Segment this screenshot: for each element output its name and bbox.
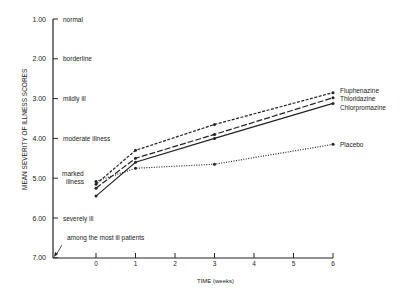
data-point [213, 137, 216, 140]
data-point [332, 143, 335, 146]
data-point [213, 133, 216, 136]
x-tick-label: 1 [134, 260, 138, 267]
x-tick-label: 6 [331, 260, 335, 267]
x-tick-label: 4 [252, 260, 256, 267]
series-lines: FluphenazineThioridazineChlorpromazinePl… [95, 87, 387, 197]
category-label: moderate illness [63, 135, 111, 142]
x-axis-label: TIME (weeks) [197, 278, 234, 284]
data-point [134, 149, 137, 152]
category-label: among the most ill patients [67, 234, 145, 242]
data-point [134, 157, 137, 160]
y-tick-label: 4.00 [32, 135, 46, 142]
data-point [95, 183, 98, 186]
y-tick-label: 5.00 [32, 175, 46, 182]
series-label: Chlorpromazine [340, 104, 386, 112]
data-point [332, 102, 335, 105]
data-point [95, 180, 98, 183]
data-point [332, 91, 335, 94]
series-line-chlorpromazine [96, 103, 333, 196]
series-line-thioridazine [96, 98, 333, 188]
category-label: borderline [63, 55, 92, 62]
category-label: marked [62, 170, 84, 177]
x-tick-label: 2 [173, 260, 177, 267]
data-point [95, 195, 98, 198]
data-point [134, 167, 137, 170]
y-axis-label: MEAN SEVERITY OF ILLNESS SCORES [21, 68, 28, 190]
data-point [213, 163, 216, 166]
x-tick-label: 3 [213, 260, 217, 267]
series-label: Placebo [340, 141, 364, 148]
category-label: normal [63, 16, 83, 23]
category-label: mildly ill [63, 95, 86, 103]
y-ticks: 1.002.003.004.005.006.007.00normalborder… [32, 16, 145, 262]
category-label: severely ill [63, 215, 94, 223]
y-tick-label: 2.00 [32, 55, 46, 62]
series-label: Thioridazine [340, 95, 376, 102]
data-point [332, 96, 335, 99]
x-tick-label: 5 [292, 260, 296, 267]
severity-line-chart: 1.002.003.004.005.006.007.00normalborder… [0, 0, 401, 296]
category-label: illness [66, 178, 85, 185]
data-point [95, 187, 98, 190]
data-point [213, 123, 216, 126]
y-tick-label: 6.00 [32, 215, 46, 222]
data-point [134, 161, 137, 164]
y-tick-label: 7.00 [32, 254, 46, 261]
x-ticks: 0123456 [94, 253, 335, 267]
y-tick-label: 1.00 [32, 16, 46, 23]
y-tick-label: 3.00 [32, 95, 46, 102]
series-label: Fluphenazine [340, 87, 379, 95]
x-tick-label: 0 [94, 260, 98, 267]
